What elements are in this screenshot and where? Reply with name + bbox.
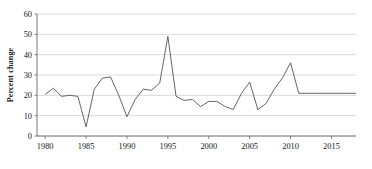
y-tick-label: 20 (24, 91, 32, 100)
line-chart-figure: 0102030405060 19801985199019952000200520… (0, 0, 372, 169)
y-axis-label: Percent change (6, 47, 15, 102)
y-tick-label: 50 (24, 30, 32, 39)
y-axis-tick-labels: 0102030405060 (24, 10, 32, 141)
y-tick-label: 30 (24, 71, 32, 80)
x-tick-label: 2000 (200, 142, 217, 151)
y-tick-label: 40 (24, 51, 32, 60)
x-tick-label: 2015 (323, 142, 340, 151)
chart-gridlines (37, 14, 356, 116)
x-tick-label: 1980 (37, 142, 54, 151)
x-tick-label: 2010 (282, 142, 299, 151)
x-tick-label: 1990 (119, 142, 136, 151)
data-series-line (45, 36, 356, 126)
chart-canvas: 0102030405060 19801985199019952000200520… (0, 0, 372, 169)
x-tick-label: 2005 (241, 142, 258, 151)
y-tick-label: 10 (24, 112, 32, 121)
y-tick-label: 0 (28, 132, 32, 141)
y-tick-label: 60 (24, 10, 32, 19)
x-tick-label: 1995 (159, 142, 176, 151)
x-axis-tick-labels: 19801985199019952000200520102015 (37, 142, 340, 151)
x-tick-label: 1985 (78, 142, 95, 151)
